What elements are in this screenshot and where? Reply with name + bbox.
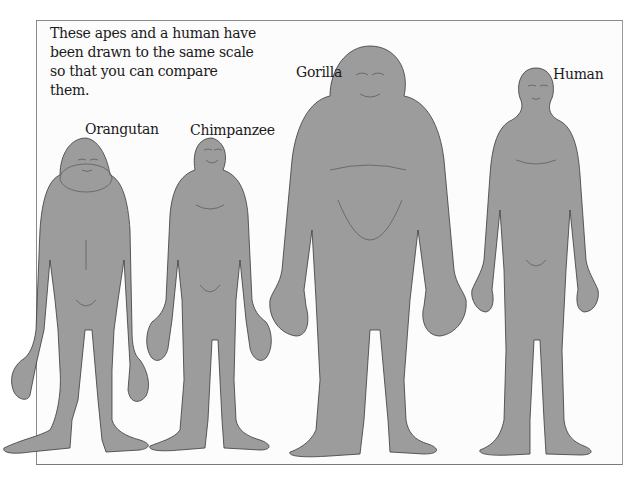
label-human: Human	[553, 66, 603, 82]
label-gorilla: Gorilla	[296, 64, 342, 80]
chimpanzee-figure	[147, 138, 272, 451]
caption-text: These apes and a human have been drawn t…	[50, 24, 260, 100]
orangutan-figure	[4, 138, 149, 453]
label-chimpanzee: Chimpanzee	[190, 122, 275, 138]
label-orangutan: Orangutan	[85, 121, 159, 137]
gorilla-figure	[270, 46, 466, 457]
human-figure	[472, 68, 599, 455]
